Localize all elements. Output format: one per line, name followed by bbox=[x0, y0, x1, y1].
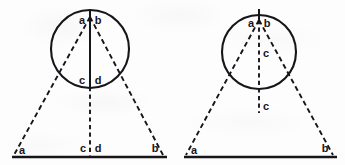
left-label-base-d: d bbox=[95, 142, 102, 154]
diagram-canvas: a b c d a c d b a b c c a b bbox=[0, 0, 345, 165]
right-label-base-a: a bbox=[191, 144, 198, 156]
right-label-apex-a: a bbox=[248, 17, 255, 29]
right-label-below-circle-c: c bbox=[263, 100, 269, 112]
left-label-circle-bottom-d: d bbox=[95, 74, 102, 86]
right-label-apex-b: b bbox=[264, 17, 271, 29]
left-label-base-c: c bbox=[80, 142, 86, 154]
left-label-apex-a: a bbox=[79, 14, 86, 26]
left-label-apex-b: b bbox=[95, 14, 102, 26]
left-figure: a b c d a c d b bbox=[0, 0, 175, 165]
right-label-inner-c: c bbox=[263, 47, 269, 59]
right-label-base-b: b bbox=[322, 142, 329, 154]
left-label-circle-bottom-c: c bbox=[79, 74, 85, 86]
left-label-base-b: b bbox=[152, 142, 159, 154]
right-figure: a b c c a b bbox=[172, 0, 345, 165]
left-label-base-a: a bbox=[19, 144, 26, 156]
